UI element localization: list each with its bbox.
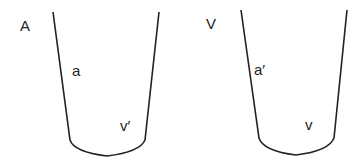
bottom-label-v-prime: v′ bbox=[120, 118, 130, 133]
panel-title-a: A bbox=[20, 18, 30, 33]
cup-outline-right bbox=[241, 10, 347, 155]
diagram-canvas bbox=[0, 0, 361, 164]
panel-title-v: V bbox=[206, 16, 216, 31]
cup-outline-left bbox=[53, 12, 159, 156]
side-label-a: a bbox=[72, 63, 80, 78]
side-label-a-prime: a′ bbox=[254, 62, 265, 77]
bottom-label-v: v bbox=[305, 117, 313, 132]
